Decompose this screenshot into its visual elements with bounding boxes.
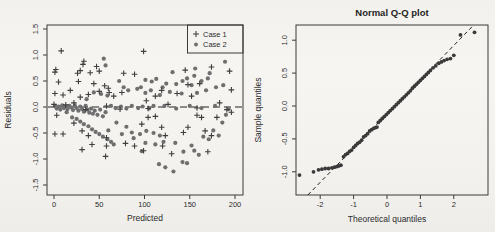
data-point-circle <box>87 111 91 115</box>
data-point-circle <box>151 104 155 108</box>
data-point-plus <box>229 87 235 93</box>
data-point-circle <box>93 109 97 113</box>
data-point-circle <box>106 128 110 132</box>
x-tick-label: 0 <box>52 200 56 209</box>
data-point-circle <box>126 88 130 92</box>
y-tick-label: 1.0 <box>280 35 289 45</box>
data-point-circle <box>161 140 165 144</box>
data-point-plus <box>75 70 81 76</box>
data-point-circle <box>113 106 117 110</box>
data-point-plus <box>153 114 159 120</box>
data-point-plus <box>79 147 85 153</box>
data-point-circle <box>185 161 189 165</box>
left-plot-dynamic: 0501001502001.51.00.50.0-0.5-1.0-1.5 <box>31 24 242 209</box>
data-point-circle <box>161 85 165 89</box>
data-point-plus <box>209 64 215 70</box>
data-point-circle <box>375 125 379 129</box>
data-point-plus <box>139 121 145 127</box>
data-point-circle <box>89 106 93 110</box>
x-tick-label: 150 <box>183 200 196 209</box>
data-point-plus <box>145 115 151 121</box>
data-point-circle <box>117 79 121 83</box>
data-point-circle <box>174 106 178 110</box>
data-point-circle <box>180 79 184 83</box>
data-point-plus <box>52 69 58 75</box>
data-point-circle <box>157 162 161 166</box>
data-point-circle <box>192 74 196 78</box>
data-point-circle <box>449 57 453 61</box>
data-point-circle <box>206 76 210 80</box>
data-point-plus <box>202 128 208 134</box>
plus-marker-icon <box>193 31 199 37</box>
data-point-plus <box>182 67 188 73</box>
data-point-plus <box>60 92 66 98</box>
legend-label-case1: Case 1 <box>203 30 227 39</box>
data-point-circle <box>185 76 189 80</box>
left-y-axis-label: Residuals <box>3 91 13 128</box>
y-tick-label: 1.5 <box>31 24 40 34</box>
x-tick-label: -1 <box>350 200 357 209</box>
right-plot-dynamic: -2-10121.00.50.0-0.5-1.0 <box>280 25 476 209</box>
data-point-circle <box>181 150 185 154</box>
data-point-circle <box>109 104 113 108</box>
data-point-circle <box>168 90 172 94</box>
data-point-circle <box>114 121 118 125</box>
x-tick-label: 2 <box>452 200 456 209</box>
data-point-circle <box>154 77 158 81</box>
data-point-circle <box>76 109 80 113</box>
data-point-circle <box>327 167 331 171</box>
data-point-circle <box>213 104 217 108</box>
data-point-circle <box>312 170 316 174</box>
data-point-circle <box>192 149 196 153</box>
data-point-circle <box>158 93 162 97</box>
data-point-circle <box>65 110 69 114</box>
y-tick-label: -0.5 <box>280 132 289 145</box>
data-point-plus <box>104 103 110 109</box>
data-point-circle <box>151 131 155 135</box>
data-point-circle <box>143 91 147 95</box>
data-point-circle <box>221 83 225 87</box>
data-point-circle <box>220 121 224 125</box>
data-point-plus <box>227 68 233 74</box>
data-point-plus <box>159 124 165 130</box>
y-tick-label: 0.0 <box>31 102 40 112</box>
data-point-circle <box>445 57 449 61</box>
x-tick-label: 100 <box>138 200 151 209</box>
data-point-circle <box>124 106 128 110</box>
data-point-plus <box>56 79 62 85</box>
data-point-plus <box>153 93 159 99</box>
data-point-plus <box>54 113 60 119</box>
data-point-plus <box>185 82 191 88</box>
data-point-plus <box>194 105 200 111</box>
y-tick-label: 0.5 <box>31 76 40 86</box>
data-point-circle <box>70 115 74 119</box>
data-point-circle <box>92 90 96 94</box>
data-point-plus <box>77 68 83 74</box>
x-tick-label: 50 <box>95 200 103 209</box>
data-point-plus <box>53 67 59 73</box>
data-point-circle <box>171 169 175 173</box>
data-point-circle <box>102 57 106 61</box>
data-point-plus <box>58 48 64 54</box>
data-point-plus <box>80 62 86 68</box>
data-point-plus <box>103 154 109 160</box>
data-point-circle <box>143 141 147 145</box>
circle-marker-icon <box>194 43 198 47</box>
data-point-circle <box>170 70 174 74</box>
y-tick-label: 0.0 <box>280 101 289 111</box>
data-point-circle <box>130 104 134 108</box>
data-point-plus <box>77 94 83 100</box>
data-point-circle <box>174 82 178 86</box>
data-point-plus <box>141 49 147 55</box>
data-point-circle <box>143 78 147 82</box>
data-point-plus <box>87 70 93 76</box>
right-y-axis-label: Sample quantiles <box>253 77 263 142</box>
data-point-circle <box>122 85 126 89</box>
data-point-circle <box>188 104 192 108</box>
data-point-circle <box>71 108 75 112</box>
data-point-circle <box>193 66 197 70</box>
y-tick-label: -1.0 <box>31 153 40 166</box>
y-tick-label: -0.5 <box>31 127 40 140</box>
data-point-plus <box>52 91 58 97</box>
data-point-circle <box>339 163 343 167</box>
